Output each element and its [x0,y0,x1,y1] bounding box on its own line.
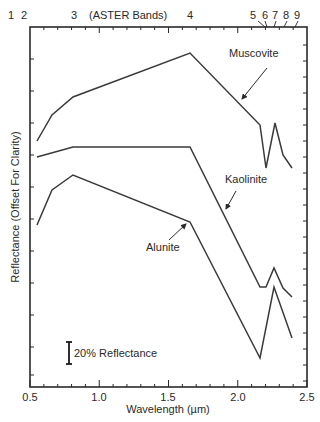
x-tick-1-0: 1.0 [91,391,106,403]
x-tick-0-5: 0.5 [22,391,37,403]
band-leader-lines [258,21,298,27]
alunite-arrow-icon [169,224,186,240]
band-label-8: 8 [283,9,289,21]
band-label-2: 2 [21,9,27,21]
x-tick-1-5: 1.5 [160,391,175,403]
muscovite-arrow-icon [242,68,267,99]
alunite-curve [37,175,292,358]
aster-band-labels: 1 2 3 (ASTER Bands) 4 5 6 7 8 9 [8,9,300,21]
band-label-3: 3 [71,9,77,21]
aster-bands-title: (ASTER Bands) [89,9,167,21]
band-label-9: 9 [294,9,300,21]
muscovite-curve [37,53,292,168]
band-label-1: 1 [8,9,14,21]
top-axis-ticks [44,27,293,33]
scale-bar-label: 20% Reflectance [74,347,157,359]
x-tick-labels: 0.5 1.0 1.5 2.0 2.5 [22,391,314,403]
band-label-6: 6 [262,9,268,21]
kaolinite-label: Kaolinite [225,173,267,185]
scale-bar [66,342,72,364]
alunite-label: Alunite [146,241,180,253]
x-axis-ticks [30,380,307,387]
kaolinite-curve [37,147,292,297]
x-tick-2-0: 2.0 [230,391,245,403]
spectral-reflectance-chart: 1 2 3 (ASTER Bands) 4 5 6 7 8 9 0.5 1.0 … [0,0,320,422]
band-label-5: 5 [250,9,256,21]
y-axis-label: Reflectance (Offset For Clarity) [9,131,21,282]
muscovite-label: Muscovite [229,47,279,59]
x-tick-2-5: 2.5 [299,391,314,403]
kaolinite-arrow-icon [226,191,236,209]
band-label-4: 4 [187,9,193,21]
band-label-7: 7 [272,9,278,21]
x-axis-label: Wavelength (µm) [126,403,210,415]
